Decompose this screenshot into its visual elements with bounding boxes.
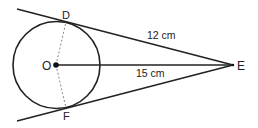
radius-of bbox=[56, 65, 66, 108]
point-e bbox=[232, 64, 234, 66]
label-oe-length: 15 cm bbox=[136, 67, 165, 79]
tangent-diagram: O D F E 12 cm 15 cm bbox=[0, 0, 258, 128]
label-de-length: 12 cm bbox=[147, 29, 176, 41]
tangent-line-de bbox=[17, 9, 233, 65]
label-o: O bbox=[42, 59, 51, 73]
label-f: F bbox=[63, 110, 70, 122]
center-point-o bbox=[53, 62, 59, 68]
radius-od bbox=[56, 22, 66, 65]
label-d: D bbox=[62, 9, 70, 21]
tangent-line-fe bbox=[17, 65, 233, 121]
label-e: E bbox=[237, 59, 245, 73]
